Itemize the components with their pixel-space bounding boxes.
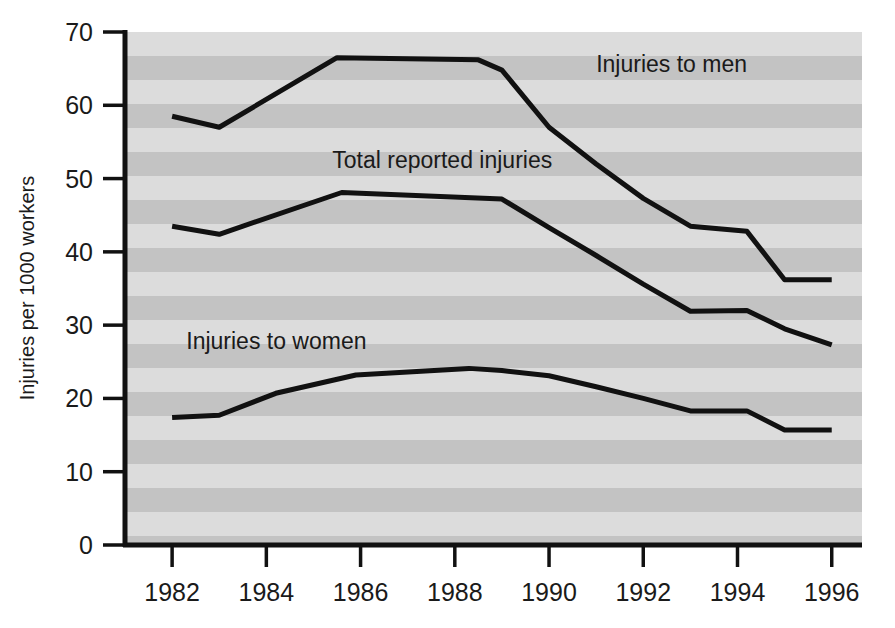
y-axis-tick-label: 10 [65, 458, 93, 486]
chart-canvas: 010203040506070 198219841986198819901992… [0, 0, 895, 628]
background-band [125, 464, 862, 488]
x-axis-tick-label: 1996 [804, 578, 860, 606]
line-chart-figure: 010203040506070 198219841986198819901992… [0, 0, 895, 628]
y-axis-tick-label: 60 [65, 91, 93, 119]
background-band [125, 32, 862, 56]
y-axis-tick-label: 20 [65, 384, 93, 412]
background-band [125, 512, 862, 536]
background-band [125, 80, 862, 104]
x-axis-tick-label: 1984 [239, 578, 295, 606]
background-band [125, 440, 862, 464]
y-axis: 010203040506070 [65, 18, 125, 559]
background-band [125, 248, 862, 272]
y-axis-title: Injuries per 1000 workers [16, 176, 38, 401]
background-band [125, 296, 862, 320]
y-axis-tick-label: 30 [65, 311, 93, 339]
background-band [125, 416, 862, 440]
background-band [125, 200, 862, 224]
plot-background [125, 32, 862, 545]
series-label: Injuries to men [596, 51, 747, 77]
series-label: Injuries to women [186, 328, 366, 354]
x-axis-tick-label: 1982 [144, 578, 200, 606]
series-label: Total reported injuries [332, 147, 552, 173]
x-axis-tick-label: 1992 [615, 578, 671, 606]
x-axis-tick-label: 1988 [427, 578, 483, 606]
x-axis-tick-label: 1986 [333, 578, 389, 606]
x-axis-tick-label: 1994 [710, 578, 766, 606]
background-band [125, 488, 862, 512]
y-axis-tick-label: 70 [65, 18, 93, 46]
y-axis-tick-label: 50 [65, 165, 93, 193]
x-axis: 19821984198619881990199219941996 [144, 545, 859, 606]
y-axis-tick-label: 40 [65, 238, 93, 266]
background-band [125, 272, 862, 296]
y-axis-tick-label: 0 [79, 531, 93, 559]
x-axis-tick-label: 1990 [521, 578, 577, 606]
